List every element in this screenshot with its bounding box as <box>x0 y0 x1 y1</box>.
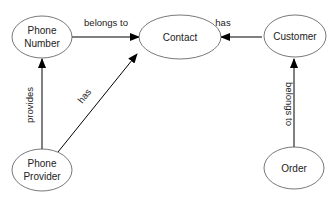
edge-label: has <box>75 86 93 105</box>
svg-text:Contact: Contact <box>163 32 198 43</box>
svg-text:Phone: Phone <box>28 158 57 169</box>
svg-text:Provider: Provider <box>23 171 61 182</box>
edge-phone-number-to-contact: belongs to <box>72 17 139 37</box>
edge-order-to-customer: belongs to <box>284 59 295 148</box>
edge-customer-to-contact: has <box>215 17 262 37</box>
edge-label: belongs to <box>284 82 295 126</box>
edge-label: has <box>215 17 231 28</box>
node-order[interactable]: Order <box>264 147 324 189</box>
svg-text:Phone: Phone <box>28 25 57 36</box>
svg-text:Customer: Customer <box>273 31 317 42</box>
edge-label: provides <box>24 87 35 123</box>
node-phone-number[interactable]: Phone Number <box>12 16 72 58</box>
edge-phone-provider-to-phone-number: provides <box>24 59 42 150</box>
node-customer[interactable]: Customer <box>264 15 326 57</box>
node-phone-provider[interactable]: Phone Provider <box>12 149 72 191</box>
edge-phone-provider-to-contact: has <box>58 54 137 152</box>
node-contact[interactable]: Contact <box>139 15 221 59</box>
edge-label: belongs to <box>84 17 128 28</box>
svg-text:Order: Order <box>281 163 307 174</box>
svg-text:Number: Number <box>24 38 60 49</box>
entity-diagram: belongs to has provides has belongs to P… <box>0 0 336 200</box>
